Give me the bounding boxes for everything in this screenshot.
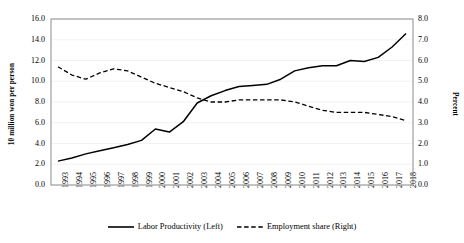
plot-area <box>0 0 464 243</box>
legend-label: Employment share (Right) <box>267 222 356 231</box>
solid-line-icon <box>108 223 134 231</box>
legend-item[interactable]: Labor Productivity (Left) <box>108 222 223 231</box>
series-line-solid <box>58 34 406 162</box>
chart-container: 10 million won per person Percent 0.02.0… <box>0 0 464 243</box>
legend-label: Labor Productivity (Left) <box>138 222 223 231</box>
series-lines <box>58 34 406 162</box>
dashed-line-icon <box>237 223 263 231</box>
series-line-dashed <box>58 67 406 121</box>
legend-item[interactable]: Employment share (Right) <box>237 222 356 231</box>
gridlines <box>51 19 413 185</box>
chart-legend: Labor Productivity (Left)Employment shar… <box>0 222 464 231</box>
